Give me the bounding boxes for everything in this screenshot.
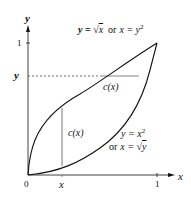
lower-curve-label-line1: y = x2 (120, 127, 146, 139)
region-between-curves-diagram: y x 0 1 1 y c(x) c(x) x y = √xorx = y2 y… (0, 0, 191, 201)
x-tick-1-label: 1 (155, 179, 160, 189)
lower-curve-label-line2: orx = √y (109, 141, 147, 152)
x-marker-label: x (58, 178, 64, 190)
x-axis-arrow-icon (168, 173, 175, 177)
vertical-cross-section-label: c(x) (68, 127, 84, 139)
x-axis-label: x (177, 170, 183, 182)
origin-label: 0 (24, 179, 29, 189)
y-marker-label: y (12, 69, 19, 81)
y-axis-arrow-icon (26, 25, 30, 32)
y-tick-1-label: 1 (17, 38, 22, 48)
horizontal-cross-section-label: c(x) (103, 81, 119, 93)
upper-curve-label: y = √xorx = y2 (77, 23, 144, 35)
y-axis-label: y (23, 12, 30, 24)
lower-curve-square (28, 43, 157, 175)
upper-curve-sqrt (28, 43, 157, 175)
